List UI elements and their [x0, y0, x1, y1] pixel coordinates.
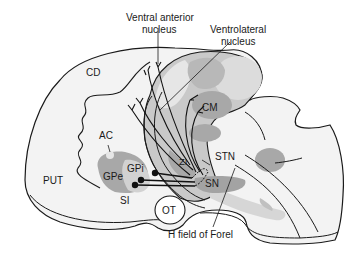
label-gpi: GPi	[127, 163, 144, 174]
label-si: SI	[120, 195, 129, 206]
label-ventral-anterior-line1: Ventral anterior	[126, 12, 194, 23]
label-ventral-anterior-line2: nucleus	[142, 24, 176, 35]
label-ventrolateral-line2: nucleus	[221, 36, 255, 47]
label-cm: CM	[202, 102, 218, 113]
label-ventrolateral-line1: Ventrolateral	[210, 24, 266, 35]
label-h-field-of-forel: H field of Forel	[168, 229, 233, 240]
label-gpe: GPe	[103, 171, 123, 182]
label-cd: CD	[86, 67, 100, 78]
label-stn: STN	[215, 151, 235, 162]
label-zi: ZI	[179, 156, 187, 167]
label-sn: SN	[205, 178, 219, 189]
label-ot: OT	[162, 205, 176, 216]
label-put: PUT	[43, 175, 63, 186]
label-ac: AC	[99, 130, 113, 141]
diagram-canvas: Ventral anterior nucleus Ventrolateral n…	[0, 0, 354, 279]
